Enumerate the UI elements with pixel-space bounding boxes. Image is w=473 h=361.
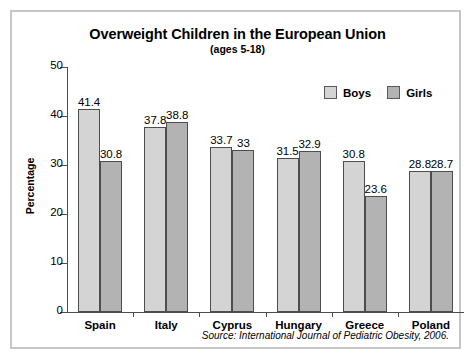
bar-value-label: 30.8 <box>343 148 365 160</box>
bar-value-label: 41.4 <box>78 96 100 108</box>
y-axis-line <box>67 67 68 313</box>
chart-frame: Overweight Children in the European Unio… <box>10 10 461 349</box>
y-axis-tick-label: 20 <box>50 206 63 218</box>
bar-girls-hungary: 32.9 <box>299 151 321 312</box>
bar-girls-greece: 23.6 <box>365 196 387 312</box>
page-title: Overweight Children in the European Unio… <box>12 26 463 43</box>
y-axis-label: Percentage <box>24 146 36 226</box>
x-axis-tick-mark <box>266 312 267 317</box>
bar-value-label: 28.7 <box>431 158 453 170</box>
bar-boys-hungary: 31.5 <box>277 158 299 312</box>
bar-boys-greece: 30.8 <box>343 161 365 312</box>
x-axis-label-spain: Spain <box>84 319 115 331</box>
bar-value-label: 37.8 <box>144 114 166 126</box>
x-axis-tick-mark <box>398 312 399 317</box>
bar-value-label: 38.8 <box>166 109 188 121</box>
y-axis-tick-label: 40 <box>50 108 63 120</box>
chart-subtitle: (ages 5-18) <box>12 43 463 56</box>
bar-girls-spain: 30.8 <box>100 161 122 312</box>
y-axis-tick-label: 30 <box>50 157 63 169</box>
y-axis-tick-label: 50 <box>50 59 63 71</box>
bar-girls-italy: 38.8 <box>166 122 188 312</box>
bar-girls-poland: 28.7 <box>431 171 453 312</box>
x-axis-label-italy: Italy <box>155 319 178 331</box>
x-axis-tick-mark <box>199 312 200 317</box>
plot-area: 01020304050 41.430.837.838.833.73331.532… <box>67 67 464 312</box>
bar-value-label: 31.5 <box>276 145 298 157</box>
x-axis-tick-mark <box>332 312 333 317</box>
bar-boys-poland: 28.8 <box>409 171 431 312</box>
x-axis-tick-mark <box>133 312 134 317</box>
chart-figure: Overweight Children in the European Unio… <box>0 0 473 361</box>
y-axis-tick-label: 10 <box>50 255 63 267</box>
source-note: Source: International Journal of Pediatr… <box>202 330 449 341</box>
bar-value-label: 32.9 <box>298 138 320 150</box>
bar-value-label: 23.6 <box>365 183 387 195</box>
bar-value-label: 28.8 <box>409 158 431 170</box>
bar-girls-cyprus: 33 <box>232 150 254 312</box>
y-axis-tick-label: 0 <box>57 304 63 316</box>
bar-value-label: 33.7 <box>210 134 232 146</box>
bar-value-label: 30.8 <box>100 148 122 160</box>
bar-boys-cyprus: 33.7 <box>210 147 232 312</box>
bar-boys-spain: 41.4 <box>78 109 100 312</box>
bar-value-label: 33 <box>237 137 250 149</box>
bar-boys-italy: 37.8 <box>144 127 166 312</box>
title-block: Overweight Children in the European Unio… <box>12 26 463 56</box>
